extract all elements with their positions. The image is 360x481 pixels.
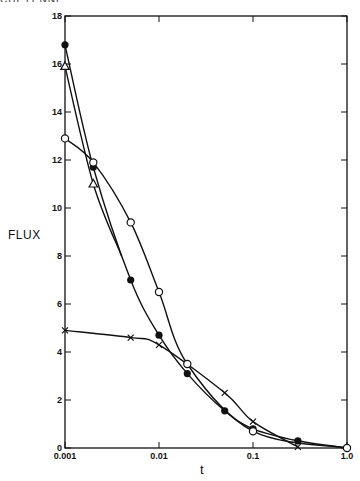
x-tick-label: 0.1 (247, 451, 260, 461)
flux-chart: 0246810121416180.0010.010.11.0 (0, 0, 360, 481)
plot-border (65, 16, 347, 448)
open-circle-curve (65, 138, 347, 448)
filled-circle-marker (127, 276, 134, 283)
y-tick-label: 2 (57, 395, 62, 405)
y-tick-label: 18 (52, 11, 62, 21)
x-tick-label: 0.001 (54, 451, 77, 461)
open-circle-marker (249, 428, 256, 435)
axis-ticks: 0246810121416180.0010.010.11.0 (52, 11, 353, 461)
filled-circle-curve (65, 45, 347, 448)
x-marker (156, 342, 162, 348)
cross-curve (65, 330, 298, 446)
filled-circle-marker (184, 370, 191, 377)
y-tick-label: 8 (57, 251, 62, 261)
open-triangle-marker (89, 180, 97, 188)
filled-circle-marker (294, 437, 301, 444)
x-marker (250, 419, 256, 425)
y-tick-label: 4 (57, 347, 62, 357)
open-circle-marker (184, 360, 191, 367)
x-tick-label: 0.01 (150, 451, 168, 461)
y-tick-label: 16 (52, 59, 62, 69)
y-tick-label: 10 (52, 203, 62, 213)
open-circle-marker (61, 135, 68, 142)
y-tick-label: 6 (57, 299, 62, 309)
open-circle-marker (155, 288, 162, 295)
x-marker (295, 444, 301, 450)
open-circle-marker (343, 444, 350, 451)
open-circle-marker (90, 159, 97, 166)
open-circle-marker (127, 219, 134, 226)
filled-circle-marker (155, 332, 162, 339)
x-tick-label: 1.0 (341, 451, 354, 461)
y-tick-label: 12 (52, 155, 62, 165)
y-tick-label: 14 (52, 107, 62, 117)
open-triangle-marker (61, 62, 69, 70)
filled-circle-marker (61, 41, 68, 48)
x-marker (222, 390, 228, 396)
plot-frame (65, 16, 347, 448)
series-curves (65, 45, 347, 448)
filled-circle-marker (221, 407, 228, 414)
